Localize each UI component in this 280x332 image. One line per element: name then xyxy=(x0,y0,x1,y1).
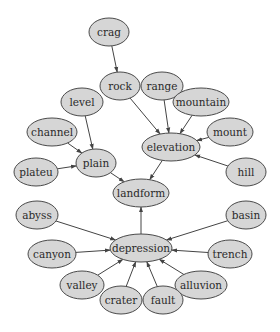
arrow-icon xyxy=(130,98,160,134)
node-label: basin xyxy=(232,209,261,221)
node-label: valley xyxy=(65,279,97,291)
node-label: abyss xyxy=(22,209,52,221)
node-label: canyon xyxy=(33,248,71,260)
edge-crater-to-depression xyxy=(126,262,136,287)
node-label: level xyxy=(69,96,95,108)
node-label: alluvion xyxy=(180,279,222,291)
edge-trench-to-depression xyxy=(172,250,208,252)
node-label: plateu xyxy=(19,166,53,178)
edge-alluvion-to-depression xyxy=(159,259,184,274)
node-hill: hill xyxy=(226,158,266,186)
node-label: crag xyxy=(97,26,121,38)
node-label: elevation xyxy=(147,141,196,153)
node-plateu: plateu xyxy=(14,158,58,186)
node-mount: mount xyxy=(207,118,253,146)
node-level: level xyxy=(61,88,103,116)
edge-elevation-to-landform xyxy=(150,160,163,179)
node-label: landform xyxy=(117,187,165,199)
node-label: hill xyxy=(238,166,255,178)
node-label: crater xyxy=(105,294,139,306)
node-label: rock xyxy=(108,80,132,92)
arrow-icon xyxy=(98,259,123,275)
edge-basin-to-depression xyxy=(166,221,227,240)
node-label: channel xyxy=(31,126,74,138)
node-channel: channel xyxy=(27,118,77,146)
arrow-icon xyxy=(85,116,93,149)
arrow-icon xyxy=(76,250,111,252)
node-label: range xyxy=(147,80,178,92)
node-label: fault xyxy=(151,294,176,306)
edge-canyon-to-depression xyxy=(76,250,111,252)
arrow-icon xyxy=(68,143,82,153)
edge-mountain-to-elevation xyxy=(180,115,192,133)
node-elevation: elevation xyxy=(142,133,200,161)
node-depression: depression xyxy=(110,234,172,262)
edge-abyss-to-depression xyxy=(56,221,116,240)
node-label: plain xyxy=(83,157,110,169)
arrow-icon xyxy=(112,46,117,72)
arrow-icon xyxy=(57,166,76,169)
node-abyss: abyss xyxy=(16,201,58,229)
arrow-icon xyxy=(166,221,227,240)
edge-mount-to-elevation xyxy=(197,137,209,140)
edge-range-to-elevation xyxy=(164,100,169,133)
arrow-icon xyxy=(111,173,125,182)
node-plain: plain xyxy=(76,149,116,177)
edge-level-to-plain xyxy=(85,116,93,149)
arrow-icon xyxy=(164,100,169,133)
node-trench: trench xyxy=(208,240,252,268)
nodes: cragrockrangemountainlevelchannelmountel… xyxy=(14,18,266,314)
edge-fault-to-depression xyxy=(147,262,158,287)
node-crag: crag xyxy=(89,18,129,46)
edge-plain-to-landform xyxy=(111,173,125,182)
node-fault: fault xyxy=(143,286,183,314)
node-crater: crater xyxy=(100,286,142,314)
node-label: trench xyxy=(213,248,248,260)
edge-channel-to-plain xyxy=(68,143,82,153)
node-valley: valley xyxy=(60,271,104,299)
arrow-icon xyxy=(56,221,116,240)
node-landform: landform xyxy=(113,179,169,207)
node-alluvion: alluvion xyxy=(175,271,227,299)
arrow-icon xyxy=(147,262,158,287)
edge-rock-to-elevation xyxy=(130,98,160,134)
node-mountain: mountain xyxy=(173,88,229,116)
arrow-icon xyxy=(197,137,209,140)
node-canyon: canyon xyxy=(28,240,76,268)
arrow-icon xyxy=(150,160,163,179)
arrow-icon xyxy=(180,115,192,133)
edge-plateu-to-plain xyxy=(57,166,76,169)
node-basin: basin xyxy=(226,201,266,229)
node-label: mount xyxy=(213,126,248,138)
edge-valley-to-depression xyxy=(98,259,123,275)
node-rock: rock xyxy=(100,72,140,100)
landform-graph: cragrockrangemountainlevelchannelmountel… xyxy=(0,0,280,332)
arrow-icon xyxy=(195,155,228,166)
edge-hill-to-elevation xyxy=(195,155,228,166)
node-label: depression xyxy=(112,242,170,254)
arrow-icon xyxy=(159,259,184,274)
arrow-icon xyxy=(172,250,208,252)
node-label: mountain xyxy=(176,96,227,108)
edge-crag-to-rock xyxy=(112,46,117,72)
arrow-icon xyxy=(126,262,136,287)
